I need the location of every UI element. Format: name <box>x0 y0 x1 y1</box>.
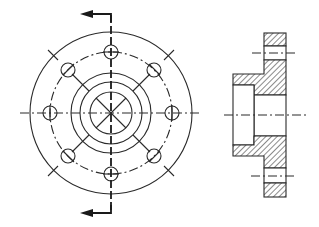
bolt-hole <box>61 63 75 77</box>
flange-drawing <box>0 0 319 227</box>
front-view <box>20 10 202 217</box>
arrow-left-icon <box>80 10 93 18</box>
hatched-section <box>264 33 286 46</box>
arrow-left-icon <box>80 209 93 217</box>
bolt-hole <box>147 63 161 77</box>
section-view <box>224 33 306 197</box>
bolt-hole <box>61 149 75 163</box>
hatched-section <box>264 183 286 197</box>
